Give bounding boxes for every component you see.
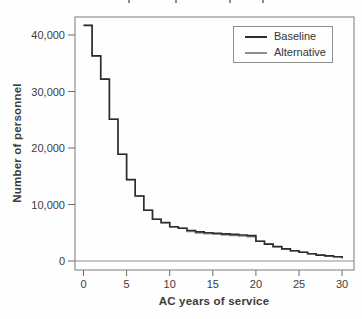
legend-item-baseline: Baseline [245,30,332,43]
y-tick-label: 0 [59,255,65,267]
x-tick-label: 0 [80,278,86,290]
x-tick-label: 20 [250,278,262,290]
x-tick-label: 10 [164,278,176,290]
legend-item-alternative: Alternative [245,46,332,59]
alternative-line-swatch [245,52,267,54]
step-chart-figure: Number of personnel AC years of service … [0,0,362,319]
y-tick-label: 10,000 [31,199,65,211]
baseline-line-swatch [245,36,267,38]
x-tick-label: 30 [336,278,348,290]
y-tick-label: 20,000 [31,142,65,154]
y-tick-label: 40,000 [31,29,65,41]
legend-label-baseline: Baseline [274,30,316,43]
legend: Baseline Alternative [233,26,333,63]
x-tick-label: 25 [293,278,305,290]
x-tick-label: 5 [124,278,130,290]
y-tick-label: 30,000 [31,86,65,98]
legend-label-alternative: Alternative [274,46,326,59]
x-tick-label: 15 [207,278,219,290]
